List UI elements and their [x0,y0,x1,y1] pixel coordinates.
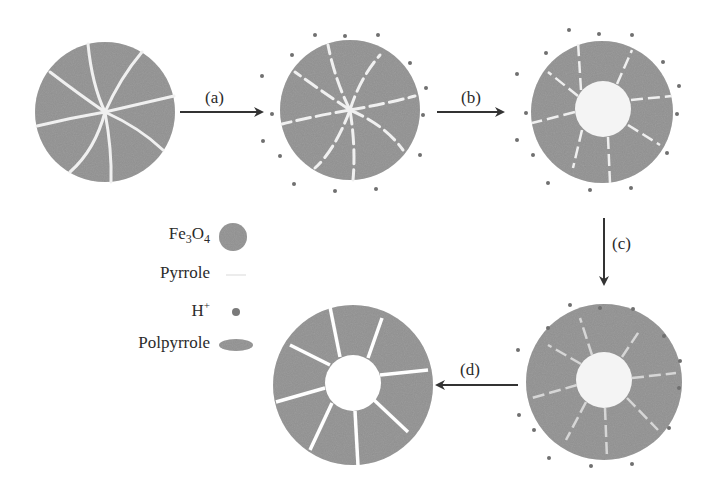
fe3o4-mid: O [192,224,204,243]
step-label-c: (c) [612,234,631,254]
fe3o4-legend-symbol [219,223,247,251]
step-label-b: (b) [461,88,481,108]
h-ion-legend-symbol [232,308,240,316]
legend-symbols [219,223,253,351]
fe3o4-sub2: 4 [204,232,210,246]
legend-label-fe3o4: Fe3O4 [10,224,210,247]
step-label-d: (d) [460,360,480,380]
stage-5-hollow-polypyrrole-sphere [273,305,433,466]
h-ion-sup: + [204,299,210,311]
stage-4-polypyrrole-coated [516,303,682,468]
stage-3-hollow-forming [515,28,681,192]
polypyrrole-legend-symbol [219,339,253,351]
step-label-a: (a) [205,88,224,108]
stage-1-fe3o4-sphere [35,42,175,182]
stage-2-fe3o4-with-h-ions [260,33,428,193]
legend-label-h-ion: H+ [10,299,210,321]
legend-label-polypyrrole: Polpyrrole [10,333,210,353]
fe3o4-base: Fe [169,224,186,243]
legend-label-pyrrole: Pyrrole [10,263,210,283]
h-ion-base: H [192,301,204,320]
